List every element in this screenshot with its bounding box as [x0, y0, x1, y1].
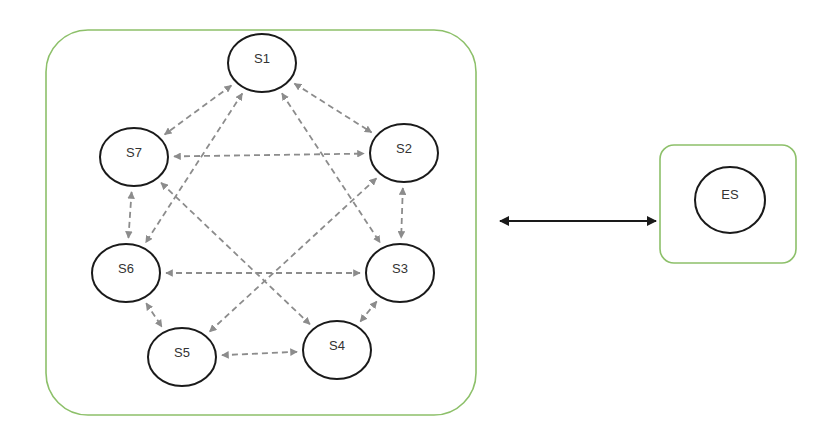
- node-S2[interactable]: S2: [370, 124, 438, 182]
- network-diagram: S1S2S3S4S5S6S7 ES: [0, 0, 837, 439]
- link-S1-S7: [165, 86, 232, 135]
- node-S3-label: S3: [392, 261, 408, 276]
- node-S7[interactable]: S7: [100, 128, 168, 186]
- link-S7-S4: [161, 183, 310, 324]
- link-S2-S3: [401, 188, 403, 238]
- peer-links: [128, 84, 402, 356]
- link-S7-S6: [128, 192, 131, 238]
- node-S5[interactable]: S5: [148, 328, 216, 386]
- link-S6-S5: [146, 303, 162, 327]
- node-ES[interactable]: ES: [695, 167, 765, 233]
- link-S5-S4: [222, 352, 297, 355]
- node-ES-label: ES: [721, 187, 739, 202]
- link-S4-S3: [360, 301, 376, 321]
- node-S4-label: S4: [329, 338, 345, 353]
- node-S2-label: S2: [396, 141, 412, 156]
- cluster-nodes: S1S2S3S4S5S6S7: [92, 34, 438, 386]
- node-S5-label: S5: [174, 345, 190, 360]
- node-S6-label: S6: [118, 261, 134, 276]
- node-S3[interactable]: S3: [366, 244, 434, 302]
- node-S7-label: S7: [126, 145, 142, 160]
- node-S4[interactable]: S4: [303, 321, 371, 379]
- node-S1[interactable]: S1: [228, 34, 296, 92]
- node-S6[interactable]: S6: [92, 244, 160, 302]
- link-S1-S2: [294, 84, 371, 133]
- node-S1-label: S1: [254, 51, 270, 66]
